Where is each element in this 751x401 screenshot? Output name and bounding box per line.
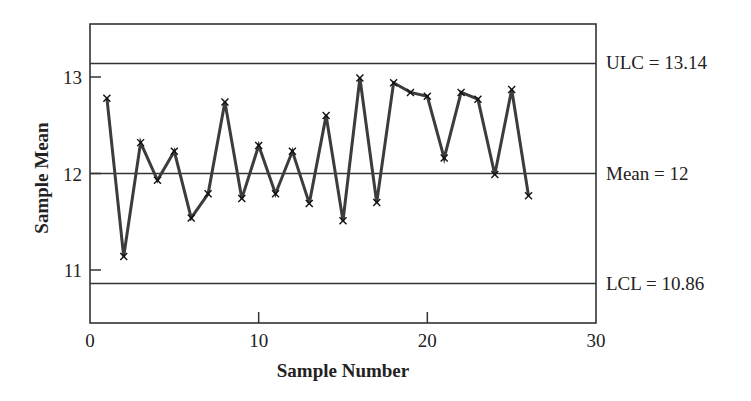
y-tick-label: 13 [63,67,82,88]
x-tick-label: 10 [249,330,268,351]
ulc-label: ULC = 13.14 [606,52,707,73]
sample-mean-line [107,78,529,257]
x-tick-label: 0 [85,330,95,351]
y-tick-label: 11 [64,260,82,281]
control-limit-lines [90,63,596,283]
x-tick-label: 30 [587,330,606,351]
lcl-label: LCL = 10.86 [606,273,704,294]
mean-label: Mean = 12 [606,163,688,184]
y-tick-label: 12 [63,164,82,185]
x-axis: 0102030 [85,312,605,351]
data-series [103,74,532,260]
y-axis-title: Sample Mean [31,122,52,234]
x-axis-title: Sample Number [277,360,410,381]
x-tick-label: 20 [418,330,437,351]
control-chart: 111213 0102030 ULC = 13.14Mean = 12LCL =… [0,0,751,401]
control-limit-labels: ULC = 13.14Mean = 12LCL = 10.86 [606,52,707,293]
y-axis: 111213 [63,67,101,281]
chart-canvas: 111213 0102030 ULC = 13.14Mean = 12LCL =… [0,0,751,401]
